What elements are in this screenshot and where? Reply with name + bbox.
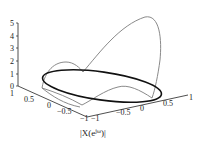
depth-tick-0.5: 0.5 — [24, 95, 34, 104]
z-tick-2: 2 — [10, 57, 14, 66]
horiz-tick-1: 1 — [189, 93, 193, 102]
z-tick-3: 3 — [10, 44, 14, 53]
plot-3d: 0 1 2 3 4 5 1 0.5 0 −0.5 −1 −1 −0.5 0 0.… — [0, 0, 201, 150]
z-tick-5: 5 — [10, 19, 14, 28]
depth-tick-0: 0 — [47, 101, 51, 110]
horiz-tick-0.5: 0.5 — [163, 99, 173, 108]
horiz-tick-neg1: −1 — [91, 114, 100, 123]
depth-tick-1: 1 — [10, 89, 14, 98]
z-tick-1: 1 — [10, 70, 14, 79]
caption: |X(ejω)| — [80, 128, 106, 138]
magnitude-curve — [42, 17, 161, 105]
depth-tick-neg0.5: −0.5 — [57, 107, 72, 116]
horiz-tick-neg0.5: −0.5 — [116, 108, 131, 117]
unit-circle — [41, 64, 164, 108]
horiz-tick-0: 0 — [140, 104, 144, 113]
depth-tick-neg1: −1 — [80, 114, 89, 123]
z-tick-4: 4 — [10, 32, 14, 41]
